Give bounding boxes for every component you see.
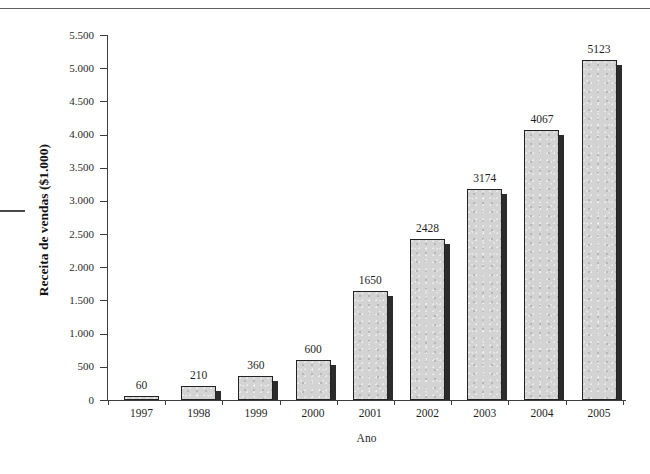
bar-value-label: 5123 <box>570 44 629 56</box>
x-axis-tick-label: 2000 <box>285 408 341 420</box>
x-axis-line <box>107 400 626 401</box>
x-axis-tick <box>337 400 338 405</box>
bar[interactable] <box>582 60 617 400</box>
bar-value-label: 360 <box>226 360 285 372</box>
bar-value-label: 3174 <box>455 173 514 185</box>
y-axis-tick <box>100 168 108 169</box>
y-axis-tick-label: 500 <box>78 361 95 372</box>
y-axis-line <box>107 35 108 401</box>
x-axis-tick-label: 2004 <box>514 408 570 420</box>
x-axis-tick-label: 1998 <box>171 408 227 420</box>
bar[interactable] <box>238 376 273 400</box>
y-axis-tick-label: 0 <box>89 395 95 406</box>
x-axis-tick-label: 1999 <box>228 408 284 420</box>
y-axis-tick-label: 1.000 <box>69 328 94 339</box>
bar-value-label: 2428 <box>398 223 457 235</box>
bar[interactable] <box>181 386 216 400</box>
y-axis-tick-label: 5.000 <box>69 63 94 74</box>
x-axis-tick-label: 1997 <box>114 408 170 420</box>
x-axis-tick-label: 2001 <box>342 408 398 420</box>
y-axis-tick <box>100 400 108 401</box>
bar-value-label: 210 <box>169 370 228 382</box>
x-axis-tick <box>451 400 452 405</box>
bar[interactable] <box>124 396 159 400</box>
y-axis-tick <box>100 367 108 368</box>
bar[interactable] <box>467 189 502 400</box>
x-axis-tick <box>623 400 624 405</box>
x-axis-tick <box>280 400 281 405</box>
y-axis-tick <box>100 334 108 335</box>
x-axis-tick-label: 2005 <box>571 408 627 420</box>
bar-value-label: 1650 <box>341 275 400 287</box>
bar-value-label: 600 <box>284 344 343 356</box>
bar[interactable] <box>353 291 388 401</box>
y-axis-tick <box>100 68 108 69</box>
bar-value-label: 4067 <box>512 114 571 126</box>
x-axis-tick <box>566 400 567 405</box>
y-axis-title: Receita de vendas ($1.000) <box>36 100 52 340</box>
x-axis-tick <box>165 400 166 405</box>
y-axis-tick <box>100 101 108 102</box>
x-axis-tick <box>222 400 223 405</box>
y-axis-tick-label: 4.500 <box>69 96 94 107</box>
y-axis-tick-label: 1.500 <box>69 295 94 306</box>
y-axis-tick <box>100 234 108 235</box>
bar[interactable] <box>296 360 331 400</box>
y-axis-tick <box>100 35 108 36</box>
bar-chart: Receita de vendas ($1.000) 05001.0001.50… <box>0 0 650 474</box>
y-axis-tick <box>100 135 108 136</box>
y-axis-tick <box>100 300 108 301</box>
x-axis-tick <box>394 400 395 405</box>
x-axis-tick-label: 2002 <box>400 408 456 420</box>
y-axis-tick-label: 3.000 <box>69 195 94 206</box>
y-axis-tick-label: 2.000 <box>69 262 94 273</box>
y-axis-tick-label: 5.500 <box>69 30 94 41</box>
y-axis-tick <box>100 201 108 202</box>
x-axis-tick-label: 2003 <box>457 408 513 420</box>
y-axis-tick-label: 4.000 <box>69 129 94 140</box>
x-axis-tick <box>508 400 509 405</box>
x-axis-title: Ano <box>107 432 626 444</box>
y-axis-tick-label: 2.500 <box>69 229 94 240</box>
bar-value-label: 60 <box>112 380 171 392</box>
y-axis-tick-label: 3.500 <box>69 162 94 173</box>
y-axis-tick <box>100 267 108 268</box>
bar[interactable] <box>410 239 445 400</box>
bar[interactable] <box>524 130 559 400</box>
x-axis-tick <box>108 400 109 405</box>
